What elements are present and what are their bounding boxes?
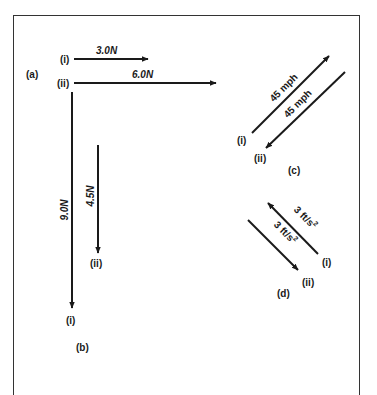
vector-d-ii: 3 ft/s2 (ii): [248, 218, 314, 288]
vector-a-ii-magnitude: 6.0N: [132, 69, 154, 80]
vector-b-i-label: (i): [66, 315, 75, 326]
vector-d-i-label: (i): [322, 257, 331, 268]
vector-a-i: (i) 3.0N: [60, 45, 148, 65]
arrow-up-right-icon: [252, 56, 329, 133]
vector-c-i-label: (i): [237, 135, 246, 146]
panel-b: 9.0N (i) 4.5N (ii) (b): [59, 92, 102, 353]
vector-c-ii-label: (ii): [254, 153, 266, 164]
arrow-down-left-icon: [266, 72, 345, 148]
panel-a: (a) (i) 3.0N (ii) 6.0N: [26, 45, 216, 89]
vector-b-ii: 4.5N (ii): [85, 145, 102, 269]
panel-d-label: (d): [277, 288, 290, 299]
vector-a-ii-label: (ii): [57, 78, 69, 89]
vector-d-i: 3 ft/s2 (i): [268, 203, 331, 268]
vector-b-i-magnitude: 9.0N: [59, 199, 70, 221]
panel-d: 3 ft/s2 (i) 3 ft/s2 (ii) (d): [248, 203, 331, 299]
vector-d-ii-label: (ii): [302, 277, 314, 288]
vector-b-i: 9.0N (i): [59, 92, 75, 326]
vector-a-i-magnitude: 3.0N: [96, 45, 118, 56]
vector-b-ii-magnitude: 4.5N: [85, 185, 96, 208]
vector-a-i-label: (i): [60, 54, 69, 65]
vector-b-ii-label: (ii): [90, 258, 102, 269]
panel-c: 45 mph (i) 45 mph (ii) (c): [237, 56, 345, 176]
vector-a-ii: (ii) 6.0N: [57, 69, 216, 89]
panel-b-label: (b): [76, 342, 89, 353]
vector-d-i-magnitude: 3 ft/s2: [292, 203, 320, 231]
panel-a-label: (a): [26, 69, 38, 80]
panel-c-label: (c): [288, 165, 300, 176]
